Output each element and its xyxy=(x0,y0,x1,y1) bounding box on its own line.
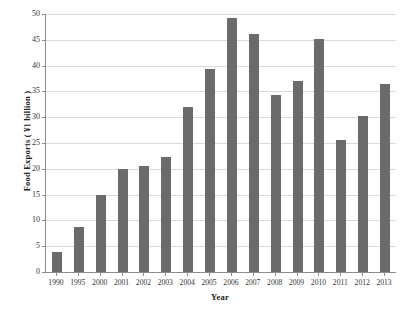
y-axis-tick-label: 15 xyxy=(22,191,40,199)
bar-2004[interactable] xyxy=(183,107,193,272)
x-axis-tickmark xyxy=(165,272,166,276)
x-axis-tick-label: 2003 xyxy=(154,277,176,289)
bar-slot xyxy=(309,14,331,272)
x-axis-tick-label: 2004 xyxy=(176,277,198,289)
bar-slot xyxy=(112,14,134,272)
bar-slot xyxy=(330,14,352,272)
y-axis-tick-label: 30 xyxy=(22,113,40,121)
bar-2001[interactable] xyxy=(118,169,128,272)
x-axis-tick-label: 2012 xyxy=(351,277,373,289)
x-axis-tickmark xyxy=(275,272,276,276)
x-axis-tick-label: 2007 xyxy=(242,277,264,289)
x-axis-tickmark xyxy=(253,272,254,276)
bar-2009[interactable] xyxy=(293,81,303,272)
x-axis-tick-label: 1995 xyxy=(67,277,89,289)
bar-chart: Food Exports ( ¥1 billion ) 051015202530… xyxy=(0,0,412,314)
plot-area xyxy=(45,14,396,273)
x-axis-tick-label: 2005 xyxy=(198,277,220,289)
x-axis-tick-label: 2008 xyxy=(264,277,286,289)
x-axis-tick-label: 2010 xyxy=(308,277,330,289)
bar-2008[interactable] xyxy=(271,95,281,272)
bar-slot xyxy=(177,14,199,272)
y-axis-tick-label: 5 xyxy=(22,242,40,250)
x-axis-tickmark xyxy=(297,272,298,276)
bar-slot xyxy=(68,14,90,272)
y-axis-tick-label: 10 xyxy=(22,216,40,224)
bar-1990[interactable] xyxy=(52,252,62,272)
x-axis-tickmark xyxy=(100,272,101,276)
x-axis-tick-label: 2001 xyxy=(111,277,133,289)
x-axis-tick-label: 2009 xyxy=(286,277,308,289)
x-axis-tickmark xyxy=(231,272,232,276)
x-axis-tick-label: 2011 xyxy=(329,277,351,289)
x-axis-tickmark xyxy=(122,272,123,276)
y-axis-tick-label: 45 xyxy=(22,36,40,44)
bar-slot xyxy=(352,14,374,272)
bar-slot xyxy=(287,14,309,272)
bar-2000[interactable] xyxy=(96,195,106,272)
y-axis-tick-label: 35 xyxy=(22,87,40,95)
bar-slot xyxy=(374,14,396,272)
bar-1995[interactable] xyxy=(74,227,84,272)
y-axis-tick-label: 0 xyxy=(22,268,40,276)
bar-slot xyxy=(46,14,68,272)
x-axis-tickmark xyxy=(209,272,210,276)
bar-slot xyxy=(265,14,287,272)
bar-2010[interactable] xyxy=(314,39,324,272)
bar-slot xyxy=(243,14,265,272)
bar-slot xyxy=(155,14,177,272)
y-axis-tick-label: 50 xyxy=(22,10,40,18)
bar-2012[interactable] xyxy=(358,116,368,272)
y-axis-tick-label: 25 xyxy=(22,139,40,147)
bar-2007[interactable] xyxy=(249,34,259,272)
y-axis-tickmark xyxy=(42,272,46,273)
x-axis-tickmark xyxy=(318,272,319,276)
bar-2002[interactable] xyxy=(139,166,149,272)
bar-slot xyxy=(90,14,112,272)
x-axis-tick-label: 2002 xyxy=(133,277,155,289)
bar-2003[interactable] xyxy=(161,157,171,272)
x-axis-tickmark xyxy=(384,272,385,276)
bar-2013[interactable] xyxy=(380,84,390,272)
bar-slot xyxy=(134,14,156,272)
y-axis-tick-label: 20 xyxy=(22,165,40,173)
bar-2005[interactable] xyxy=(205,69,215,272)
x-axis-title: Year xyxy=(45,292,395,302)
bar-slot xyxy=(221,14,243,272)
x-axis-tickmark xyxy=(78,272,79,276)
y-axis-tick-labels: 05101520253035404550 xyxy=(22,14,40,272)
x-axis-tick-label: 2013 xyxy=(373,277,395,289)
x-axis-tick-label: 1990 xyxy=(45,277,67,289)
bars-layer xyxy=(46,14,396,272)
bar-slot xyxy=(199,14,221,272)
x-axis-tick-label: 2006 xyxy=(220,277,242,289)
x-axis-tick-labels: 1990199520002001200220032004200520062007… xyxy=(45,277,395,289)
bar-2011[interactable] xyxy=(336,140,346,272)
bar-2006[interactable] xyxy=(227,18,237,272)
y-axis-tick-label: 40 xyxy=(22,62,40,70)
x-axis-tickmark xyxy=(56,272,57,276)
x-axis-tickmark xyxy=(187,272,188,276)
x-axis-tickmark xyxy=(340,272,341,276)
x-axis-tick-label: 2000 xyxy=(89,277,111,289)
x-axis-tickmark xyxy=(143,272,144,276)
x-axis-tickmark xyxy=(362,272,363,276)
